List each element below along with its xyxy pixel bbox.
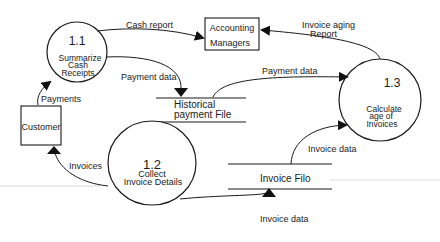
flow-label: Payment data bbox=[262, 66, 318, 76]
entity-label-line: Accounting bbox=[210, 23, 255, 33]
process-label-line: Invoice Details bbox=[124, 177, 183, 187]
flow-label: Invoices bbox=[69, 161, 103, 171]
flow-invoice-aging-report[interactable]: Invoice aging Report bbox=[262, 20, 380, 59]
flow-label: Payments bbox=[41, 94, 82, 104]
entity-label-line: Managers bbox=[210, 38, 251, 48]
data-flow-diagram: 1.1 Summarize Cash Receipts Accounting M… bbox=[0, 0, 440, 242]
datastore-invoice-file[interactable]: Invoice Filo bbox=[228, 164, 332, 189]
datastore-historical-payment-file[interactable]: Historical payment File bbox=[156, 98, 246, 122]
process-number: 1.1 bbox=[69, 34, 86, 48]
process-1-3[interactable]: 1.3 Calculate age of Invoices bbox=[339, 59, 421, 141]
datastore-label-line: payment File bbox=[174, 109, 232, 120]
process-number: 1.3 bbox=[384, 76, 401, 90]
flow-label-line: Report bbox=[310, 29, 338, 39]
entity-label-line: Customer bbox=[21, 122, 60, 132]
process-label-line: Invoices bbox=[366, 119, 397, 129]
flow-invoice-data-to-store[interactable]: Invoice data bbox=[180, 188, 309, 224]
flow-invoice-data-to-1-3[interactable]: Invoice data bbox=[291, 125, 357, 164]
flow-invoices[interactable]: Invoices bbox=[47, 146, 108, 186]
flow-payment-data-to-store[interactable]: Payment data bbox=[106, 57, 188, 97]
flow-payment-data-to-1-3[interactable]: Payment data bbox=[213, 66, 347, 97]
process-label-line: Receipts bbox=[61, 68, 94, 78]
flow-payments[interactable]: Payments bbox=[38, 82, 82, 105]
flow-label: Payment data bbox=[121, 72, 177, 82]
entity-accounting-managers[interactable]: Accounting Managers bbox=[205, 18, 259, 50]
entity-customer[interactable]: Customer bbox=[21, 106, 61, 145]
process-1-2[interactable]: 1.2 Collect Invoice Details bbox=[108, 121, 196, 205]
flow-label: Invoice data bbox=[260, 214, 309, 224]
datastore-label-line: Invoice Filo bbox=[260, 173, 311, 184]
flow-label: Cash report bbox=[126, 20, 174, 30]
flow-cash-report[interactable]: Cash report bbox=[97, 20, 203, 38]
flow-label: Invoice data bbox=[308, 144, 357, 154]
